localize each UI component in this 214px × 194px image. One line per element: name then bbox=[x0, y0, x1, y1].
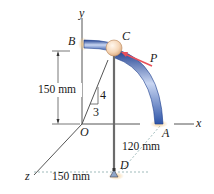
point-label-B: B bbox=[68, 34, 76, 48]
axis-label-z: z bbox=[24, 169, 30, 183]
axis-label-x: x bbox=[195, 116, 202, 130]
force-label-P: P bbox=[149, 51, 158, 65]
point-label-O: O bbox=[80, 125, 89, 139]
slope-run-3: 3 bbox=[93, 105, 99, 119]
dimension-150mm-horizontal: 150 mm bbox=[52, 170, 90, 182]
z-axis bbox=[34, 124, 82, 175]
slope-rise-4: 4 bbox=[100, 88, 106, 102]
dimension-120mm: 120 mm bbox=[122, 140, 160, 152]
dim-arrow-down bbox=[57, 119, 60, 124]
ball-joint-C bbox=[106, 40, 122, 56]
dimension-150mm-vertical: 150 mm bbox=[38, 83, 76, 95]
dim-arrow-up bbox=[57, 51, 60, 56]
point-label-C: C bbox=[122, 29, 131, 43]
statics-diagram: y B C P 150 mm 4 3 O A x 120 mm D z 150 … bbox=[0, 0, 214, 194]
axis-label-y: y bbox=[78, 6, 85, 20]
point-label-D: D bbox=[119, 158, 129, 172]
point-label-A: A bbox=[161, 126, 170, 140]
